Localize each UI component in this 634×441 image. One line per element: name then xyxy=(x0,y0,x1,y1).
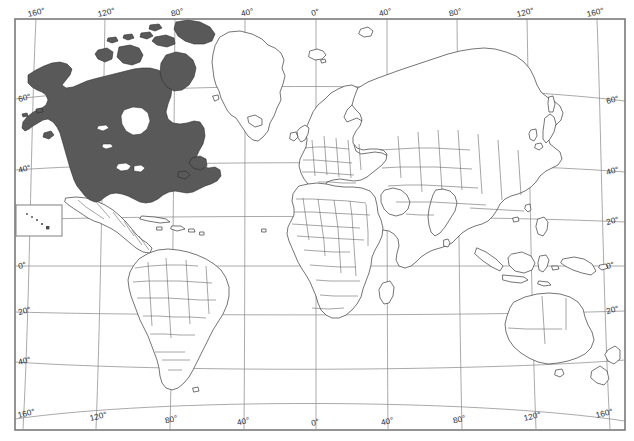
world-map-figure: 160° 120° 80° 40° 0° 40° 80° 120° 160° 1… xyxy=(0,0,634,441)
hawaii-inset xyxy=(16,205,62,236)
label-left-1: 40° xyxy=(17,163,31,175)
tasmania-coast xyxy=(555,369,564,377)
arctic-islet-b xyxy=(123,34,134,40)
label-top-2: 80° xyxy=(170,7,184,19)
label-bottom-6: 80° xyxy=(452,414,466,426)
label-left-4: 40° xyxy=(17,355,31,367)
jamaica-islet xyxy=(157,227,162,230)
java-coast xyxy=(503,275,528,283)
greenland-coast xyxy=(212,31,285,141)
label-left-3: 20° xyxy=(17,305,31,317)
banks-island-fill xyxy=(95,48,113,62)
hawaii-inset-dot-2 xyxy=(31,216,33,218)
africa-coast xyxy=(287,183,383,318)
hawaii-inset-frame xyxy=(16,205,62,236)
label-bottom-5: 40° xyxy=(380,416,394,428)
label-bottom-7: 120° xyxy=(523,410,542,423)
madagascar-coast xyxy=(379,281,394,304)
philippines-coast xyxy=(536,217,548,236)
hawaii-inset-dot-5 xyxy=(46,226,49,229)
cape-verde-islet xyxy=(262,229,266,232)
sulawesi-coast xyxy=(538,255,549,272)
label-top-5: 40° xyxy=(378,7,392,19)
hainan-islet xyxy=(513,217,519,222)
label-left-2: 0° xyxy=(17,260,27,271)
sakhalin-coast xyxy=(548,96,555,112)
vancouver-island-fill xyxy=(43,131,54,139)
label-top-4: 0° xyxy=(310,7,320,18)
lesser-antilles-islet xyxy=(200,232,204,235)
moluccas-islet xyxy=(552,266,559,270)
taiwan-islet xyxy=(525,204,531,212)
label-bottom-2: 80° xyxy=(164,414,178,426)
label-top-8: 160° xyxy=(586,6,605,19)
new-guinea-coast xyxy=(561,257,596,275)
label-bottom-3: 40° xyxy=(236,416,250,428)
puerto-rico-islet xyxy=(189,229,195,232)
baffin-island-fill xyxy=(160,52,196,91)
label-top-0: 160° xyxy=(27,6,46,19)
falklands-islet xyxy=(193,387,199,392)
label-top-1: 120° xyxy=(97,6,116,19)
devon-island-fill xyxy=(152,35,175,47)
latitude-labels-right: 60° 40° 20° 0° 20° xyxy=(605,94,619,316)
highlighted-north-america xyxy=(22,20,221,203)
alaska-islet xyxy=(36,108,43,113)
label-top-7: 120° xyxy=(516,6,535,19)
greenland-islet-b xyxy=(213,95,219,101)
timor-islet xyxy=(538,281,551,286)
iceland-islet xyxy=(321,59,326,63)
new-zealand-south-coast xyxy=(591,366,609,385)
label-top-6: 80° xyxy=(448,7,462,19)
arctic-islet-a xyxy=(140,32,153,39)
label-bottom-4: 0° xyxy=(310,417,320,428)
label-left-0: 60° xyxy=(17,92,31,104)
central-america-coast xyxy=(65,197,152,253)
label-right-4: 20° xyxy=(605,304,619,316)
hawaii-inset-dot-3 xyxy=(36,219,38,221)
iceland-coast xyxy=(309,49,326,60)
hawaii-inset-dot-4 xyxy=(41,223,43,225)
aleutian-islet-a xyxy=(22,113,28,117)
label-bottom-0: 160° xyxy=(17,407,36,420)
label-bottom-1: 120° xyxy=(89,410,108,423)
arctic-islet-d xyxy=(149,24,162,31)
label-top-3: 40° xyxy=(240,7,254,19)
label-right-3: 0° xyxy=(605,260,615,271)
label-right-1: 40° xyxy=(605,165,619,177)
sumatra-coast xyxy=(475,248,503,271)
label-right-2: 20° xyxy=(605,215,619,227)
arctic-islet-c xyxy=(107,37,118,43)
longitude-labels-top: 160° 120° 80° 40° 0° 40° 80° 120° 160° xyxy=(27,6,605,19)
label-bottom-8: 160° xyxy=(595,407,614,420)
svalbard-coast xyxy=(359,27,373,37)
world-map-canvas: 160° 120° 80° 40° 0° 40° 80° 120° 160° 1… xyxy=(0,0,634,441)
victoria-island-fill xyxy=(117,45,143,65)
ireland-coast xyxy=(290,132,298,141)
ellesmere-island-fill xyxy=(174,20,215,44)
japan-coast xyxy=(543,114,556,143)
hawaii-inset-dot-1 xyxy=(26,213,28,215)
label-right-0: 60° xyxy=(605,94,619,106)
